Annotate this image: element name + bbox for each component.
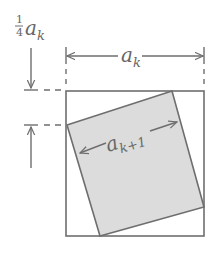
quarter-numerator: 1 <box>16 13 23 26</box>
nested-squares-diagram: ak 1 4 ak ak+1 <box>0 0 219 276</box>
inner-square <box>67 91 204 236</box>
quarter-label: ak <box>25 16 45 43</box>
outer-side-label: ak <box>121 43 141 70</box>
quarter-denominator: 4 <box>16 26 23 39</box>
